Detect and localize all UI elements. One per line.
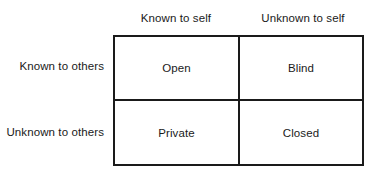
cell-private: Private	[115, 101, 240, 164]
cell-blind: Blind	[240, 37, 362, 101]
column-header-unknown-to-self: Unknown to self	[240, 12, 366, 24]
row-label-known-to-others: Known to others	[0, 60, 104, 72]
cell-label: Open	[162, 62, 191, 74]
matrix-grid: Open Blind Private Closed	[113, 35, 364, 166]
cell-label: Blind	[288, 62, 314, 74]
cell-open: Open	[115, 37, 240, 101]
row-label-unknown-to-others: Unknown to others	[0, 126, 104, 138]
cell-label: Closed	[283, 127, 319, 139]
cell-closed: Closed	[240, 101, 362, 164]
cell-label: Private	[158, 127, 195, 139]
column-header-known-to-self: Known to self	[113, 12, 239, 24]
